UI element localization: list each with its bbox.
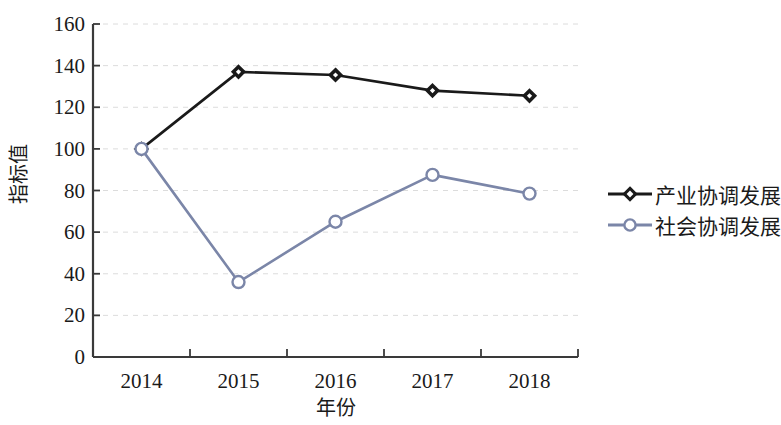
y-axis-tick-label: 0 (30, 347, 85, 368)
y-axis-tick-label: 160 (30, 14, 85, 35)
x-axis-tick-label: 2016 (315, 371, 357, 392)
y-axis-tick-label: 80 (30, 180, 85, 201)
legend-marker-circle-icon (608, 215, 652, 235)
x-axis-tick-label: 2015 (218, 371, 260, 392)
data-point-marker (524, 188, 536, 200)
chart-legend: 产业协调发展 社会协调发展 (608, 178, 781, 240)
data-point-marker (136, 143, 148, 155)
legend-label-series-2: 社会协调发展 (655, 210, 781, 240)
data-point-marker (330, 216, 342, 228)
data-series (135, 66, 535, 288)
legend-label-series-1: 产业协调发展 (655, 179, 781, 209)
y-axis-tick-label: 100 (30, 138, 85, 159)
x-axis-tick-label: 2018 (509, 371, 551, 392)
y-axis-tick-label: 20 (30, 305, 85, 326)
legend-item-series-1: 产业协调发展 (608, 178, 781, 209)
y-axis-tick-label: 40 (30, 263, 85, 284)
x-axis-title: 年份 (316, 398, 356, 418)
series-line-1 (142, 72, 530, 149)
legend-marker-diamond-icon (608, 184, 652, 204)
data-point-marker (233, 276, 245, 288)
y-axis-tick-label: 140 (30, 55, 85, 76)
legend-item-series-2: 社会协调发展 (608, 209, 781, 240)
x-axis-tick-label: 2017 (412, 371, 454, 392)
y-axis-tick-label: 120 (30, 97, 85, 118)
y-axis-tick-label: 60 (30, 222, 85, 243)
x-axis-tick-label: 2014 (121, 371, 163, 392)
data-point-marker (427, 169, 439, 181)
y-axis-title: 指标值 (9, 178, 29, 204)
